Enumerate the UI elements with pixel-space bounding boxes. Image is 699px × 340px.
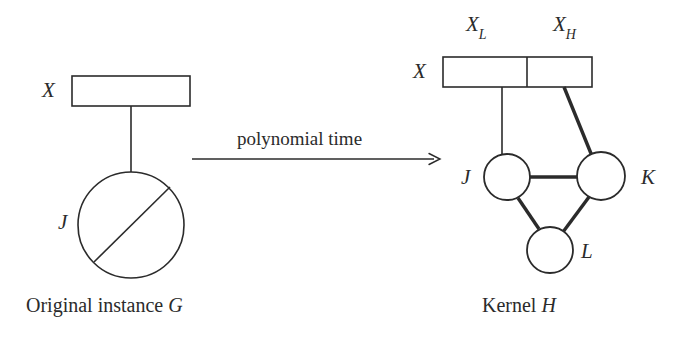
node-label-l: L	[581, 241, 593, 262]
arrow-label: polynomial time	[237, 129, 362, 148]
left-panel-graphics	[72, 76, 190, 278]
kernelization-figure: X J Original instance G polynomial time …	[0, 0, 699, 340]
right-set-box	[443, 57, 592, 87]
figure-canvas	[0, 0, 699, 340]
segment-label-xl: XL	[466, 14, 487, 39]
node-k	[577, 152, 625, 200]
right-caption-symbol: H	[541, 294, 555, 316]
edge-k-to-l	[563, 197, 589, 232]
segment-label-xh-sub: H	[566, 27, 576, 42]
left-caption-text: Original instance	[26, 294, 163, 316]
node-j	[484, 154, 530, 200]
right-box-label: X	[413, 61, 426, 82]
left-box-label: X	[42, 80, 55, 101]
right-panel-graphics	[443, 57, 625, 273]
left-circle-label: J	[58, 212, 67, 233]
left-caption: Original instance G	[26, 295, 183, 315]
edge-xh-to-k	[564, 87, 592, 156]
left-caption-symbol: G	[168, 294, 182, 316]
right-caption-text: Kernel	[482, 294, 536, 316]
segment-label-xl-base: X	[466, 12, 479, 36]
transformation-arrow	[192, 154, 440, 165]
right-caption: Kernel H	[482, 295, 556, 315]
segment-label-xh: XH	[553, 14, 576, 39]
segment-label-xl-sub: L	[479, 27, 487, 42]
node-label-k: K	[641, 167, 655, 188]
edge-j-to-l	[518, 198, 539, 229]
node-l	[527, 227, 573, 273]
left-set-box	[72, 76, 190, 106]
segment-label-xh-base: X	[553, 12, 566, 36]
node-label-j: J	[461, 167, 470, 188]
